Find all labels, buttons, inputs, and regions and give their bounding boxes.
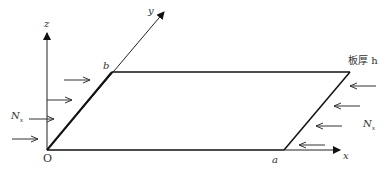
x-axis-label: x [343, 151, 349, 161]
right-load-label: Nx [363, 119, 375, 131]
dimension-b-label: b [103, 61, 109, 71]
z-axis-label: z [44, 19, 49, 29]
left-load-label: Nx [11, 111, 23, 123]
plate-diagram [0, 0, 388, 177]
plate-right-edge [284, 72, 350, 150]
left-load-arrows [12, 80, 90, 139]
thickness-label: 板厚 h [348, 56, 378, 66]
right-load-arrows [299, 86, 376, 145]
dimension-a-label: a [272, 155, 278, 165]
y-axis-label: y [148, 6, 154, 16]
origin-label: O [43, 153, 52, 164]
